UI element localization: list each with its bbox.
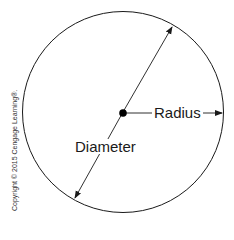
copyright-text: Copyright © 2015 Cengage Learning®.	[11, 90, 18, 211]
diameter-label: Diameter	[75, 139, 136, 154]
diameter-line-lower	[75, 112, 123, 198]
center-point	[119, 109, 127, 117]
radius-label: Radius	[152, 105, 203, 120]
diameter-line	[123, 27, 172, 112]
